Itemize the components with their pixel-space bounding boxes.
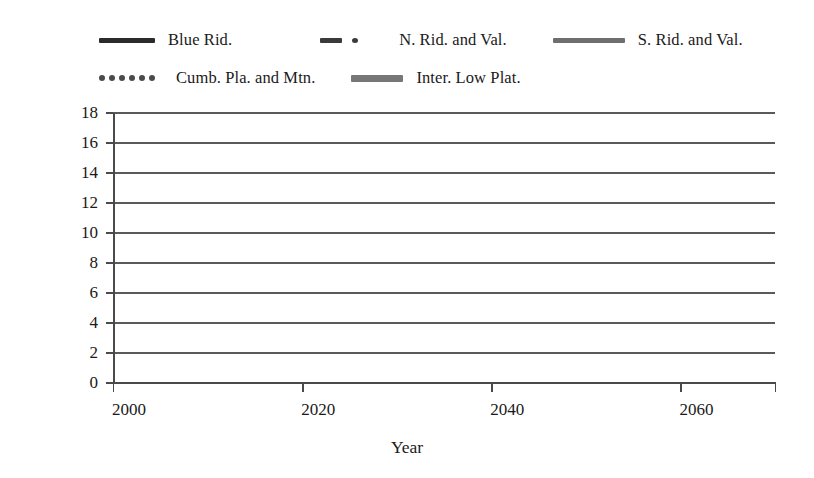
y-tick-mark (106, 142, 113, 144)
legend-swatch-solid-thick-gray-icon (553, 38, 625, 43)
legend-label-inter-low-plat: Inter. Low Plat. (416, 68, 520, 88)
y-tick-mark (106, 352, 113, 354)
legend-item-blue-rid[interactable]: Blue Rid. (99, 30, 232, 50)
legend-swatch-solid-gray-icon (351, 75, 403, 82)
y-axis-title: Mean annual temperature (°C) (0, 0, 3, 160)
x-tick-mark (113, 383, 114, 392)
x-axis-end-tick (775, 383, 776, 392)
x-tick-label: 2040 (467, 400, 547, 420)
legend-label-cumb-pla-and-mtn: Cumb. Pla. and Mtn. (176, 68, 315, 88)
y-tick-label: 14 (62, 164, 98, 181)
x-tick-label: 2020 (278, 400, 358, 420)
y-tick-mark (106, 382, 113, 384)
y-tick-label: 16 (62, 134, 98, 151)
legend-item-inter-low-plat[interactable]: Inter. Low Plat. (351, 68, 520, 88)
chart-container: Blue Rid. N. Rid. and Val. S. Rid. and V… (0, 0, 814, 478)
y-tick-label: 0 (62, 374, 98, 391)
x-tick-mark (680, 383, 681, 392)
y-tick-label: 10 (62, 224, 98, 241)
legend-label-s-rid-and-val: S. Rid. and Val. (638, 30, 743, 50)
chart-series-layer (113, 113, 775, 383)
x-axis-title: Year (0, 437, 814, 458)
x-tick-mark (302, 383, 303, 392)
y-tick-label: 2 (62, 344, 98, 361)
legend-label-n-rid-and-val: N. Rid. and Val. (399, 30, 507, 50)
legend-swatch-solid-thick-dark-icon (99, 38, 155, 43)
legend-label-blue-rid: Blue Rid. (168, 30, 232, 50)
legend-item-s-rid-and-val[interactable]: S. Rid. and Val. (553, 30, 743, 50)
legend-swatch-dash-dot-icon (320, 38, 386, 43)
y-tick-mark (106, 112, 113, 114)
y-tick-label: 8 (62, 254, 98, 271)
y-tick-label: 12 (62, 194, 98, 211)
legend-item-n-rid-and-val[interactable]: N. Rid. and Val. (320, 30, 507, 50)
legend-row-1: Blue Rid. N. Rid. and Val. S. Rid. and V… (99, 30, 743, 50)
x-tick-label: 2000 (89, 400, 169, 420)
y-tick-mark (106, 232, 113, 234)
y-tick-mark (106, 262, 113, 264)
x-tick-label: 2060 (656, 400, 736, 420)
y-tick-label: 18 (62, 104, 98, 121)
y-tick-label: 6 (62, 284, 98, 301)
legend-swatch-dotted-icon (99, 75, 163, 81)
y-tick-mark (106, 322, 113, 324)
y-tick-mark (106, 292, 113, 294)
y-tick-mark (106, 172, 113, 174)
y-tick-mark (106, 202, 113, 204)
y-tick-label: 4 (62, 314, 98, 331)
x-tick-mark (491, 383, 492, 392)
legend-row-2: Cumb. Pla. and Mtn. Inter. Low Plat. (99, 68, 521, 88)
legend-item-cumb-pla-and-mtn[interactable]: Cumb. Pla. and Mtn. (99, 68, 315, 88)
